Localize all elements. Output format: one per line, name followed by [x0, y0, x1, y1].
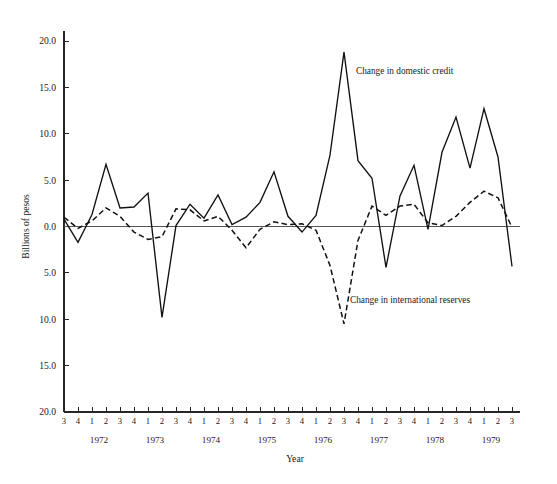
y-axis-tick-label: 5.0 [44, 267, 56, 278]
y-axis-title: Billions of pesos [20, 194, 31, 259]
x-axis-year-label: 1976 [314, 435, 333, 445]
series-annotation-label: Change in international reserves [350, 295, 470, 305]
y-axis-tick-label: 5.0 [44, 175, 56, 186]
x-axis-quarter-label: 3 [398, 416, 402, 426]
x-axis-quarter-label: 3 [174, 416, 178, 426]
x-axis-quarter-label: 3 [342, 416, 346, 426]
x-axis-quarter-label: 3 [510, 416, 514, 426]
chart-figure: 20.015.010.05.00.05.010.015.020.0 341234… [0, 0, 557, 484]
x-axis-quarter-label: 4 [356, 416, 361, 426]
x-axis-quarter-label: 1 [426, 416, 430, 426]
x-axis-quarter-label: 1 [146, 416, 150, 426]
x-axis-quarter-label: 1 [258, 416, 262, 426]
x-axis-quarter-label: 2 [384, 416, 388, 426]
x-axis-year-label: 1979 [482, 435, 501, 445]
x-axis-quarter-label: 1 [482, 416, 486, 426]
data-series-group [64, 52, 512, 324]
x-axis-quarter-label: 4 [468, 416, 473, 426]
y-axis-tick-label: 15.0 [39, 360, 56, 371]
x-axis-quarter-label: 2 [104, 416, 108, 426]
x-axis-quarter-label: 3 [286, 416, 290, 426]
line-chart-canvas: 20.015.010.05.00.05.010.015.020.0 341234… [0, 0, 557, 484]
x-axis-year-label: 1973 [146, 435, 165, 445]
x-axis-quarter-label: 1 [90, 416, 94, 426]
x-axis-title: Year [286, 453, 304, 464]
x-axis-quarter-label: 2 [160, 416, 164, 426]
x-axis-quarter-label: 2 [272, 416, 276, 426]
x-axis-quarter-label: 4 [132, 416, 137, 426]
x-axis-quarter-label: 1 [314, 416, 318, 426]
x-axis-quarter-label: 2 [328, 416, 332, 426]
x-axis-quarter-label: 3 [62, 416, 66, 426]
x-axis-quarter-label: 4 [188, 416, 193, 426]
y-axis-tick-label: 10.0 [39, 314, 56, 325]
x-axis-year-label: 1975 [258, 435, 277, 445]
x-axis-quarter-label: 1 [370, 416, 374, 426]
y-axis: 20.015.010.05.00.05.010.015.020.0 [39, 31, 69, 417]
x-axis-quarter-label: 4 [300, 416, 305, 426]
y-axis-tick-label: 10.0 [39, 128, 56, 139]
series-annotation-label: Change in domestic credit [356, 66, 454, 76]
x-axis-year-label: 1974 [202, 435, 221, 445]
y-axis-tick-label: 20.0 [39, 35, 56, 46]
x-axis-quarter-label: 4 [244, 416, 249, 426]
x-axis-quarter-label: 2 [440, 416, 444, 426]
x-axis-quarter-label: 3 [454, 416, 458, 426]
series-annotations: Change in domestic creditChange in inter… [350, 66, 470, 305]
x-axis-quarter-label: 2 [216, 416, 220, 426]
x-axis-quarter-label: 4 [76, 416, 81, 426]
y-axis-tick-label: 20.0 [39, 406, 56, 417]
x-axis-quarter-label: 2 [496, 416, 500, 426]
x-axis-quarter-label: 4 [412, 416, 417, 426]
x-axis-quarter-label: 3 [118, 416, 122, 426]
x-axis-quarter-label: 3 [230, 416, 234, 426]
x-axis: 3412341234123412341234123412341231972197… [62, 407, 520, 445]
x-axis-quarter-label: 1 [202, 416, 206, 426]
x-axis-year-label: 1972 [90, 435, 109, 445]
x-axis-year-label: 1978 [426, 435, 445, 445]
y-axis-tick-label: 0.0 [44, 221, 56, 232]
y-axis-tick-label: 15.0 [39, 82, 56, 93]
x-axis-year-label: 1977 [370, 435, 389, 445]
series-line-domestic-credit [64, 52, 512, 317]
